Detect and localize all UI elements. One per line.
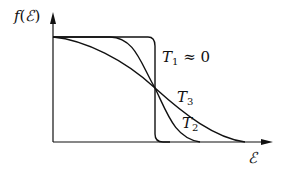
x-axis-arrow-icon [261, 139, 273, 145]
curve-label-t2: T2 [182, 114, 198, 133]
curve-t3 [53, 37, 245, 142]
fermi-dirac-diagram: f(ℰ) T1 ≈ 0 T3 T2 ℰ [0, 0, 287, 171]
curve-label-t3: T3 [177, 88, 193, 107]
y-axis-label: f(ℰ) [13, 7, 40, 25]
x-axis-label: ℰ [248, 149, 259, 167]
y-axis-arrow-icon [50, 12, 56, 24]
curve-label-t1: T1 ≈ 0 [162, 48, 210, 67]
curve-t1 [53, 37, 170, 142]
